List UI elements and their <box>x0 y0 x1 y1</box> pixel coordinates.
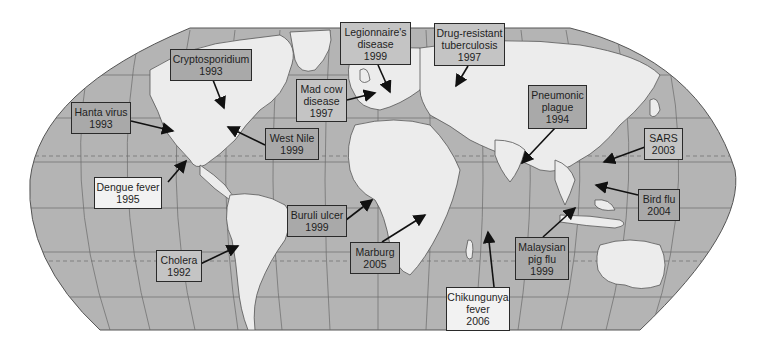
label-year: 2006 <box>466 315 489 327</box>
label-year: 1997 <box>458 51 481 63</box>
label-text: Legionnaire's <box>344 26 406 38</box>
label-text: West Nile <box>270 132 315 144</box>
label-cryptosporidium: Cryptosporidium 1993 <box>170 49 252 81</box>
label-malaysian-pig-flu: Malaysian pig flu 1999 <box>515 237 569 280</box>
label-year: 1999 <box>280 144 303 156</box>
label-mad-cow: Mad cow disease 1997 <box>296 79 347 122</box>
label-year: 2003 <box>652 144 675 156</box>
label-text: Pneumonic <box>531 89 584 101</box>
label-text: Malaysian <box>518 241 565 253</box>
label-year: 2004 <box>647 205 670 217</box>
label-west-nile: West Nile 1999 <box>265 128 319 160</box>
label-year: 1997 <box>310 107 333 119</box>
label-dengue-fever: Dengue fever 1995 <box>94 177 162 209</box>
label-text-2: fever <box>466 303 489 315</box>
label-chikungunya-fever: Chikungunya fever 2006 <box>446 287 510 331</box>
label-marburg: Marburg 2005 <box>350 242 400 274</box>
label-text: Chikungunya <box>447 291 508 303</box>
label-text: Dengue fever <box>96 181 159 193</box>
label-year: 1999 <box>305 221 328 233</box>
label-legionnaires: Legionnaire's disease 1999 <box>340 22 411 65</box>
label-text-2: plague <box>542 101 574 113</box>
label-bird-flu: Bird flu 2004 <box>638 189 680 221</box>
label-text-2: disease <box>357 38 393 50</box>
label-text: Drug-resistant <box>437 27 503 39</box>
label-sars: SARS 2003 <box>644 128 683 160</box>
label-text: Buruli ulcer <box>291 209 344 221</box>
label-year: 2005 <box>363 258 386 270</box>
new-zealand <box>688 289 698 302</box>
label-year: 1993 <box>89 118 112 130</box>
label-year: 1993 <box>199 65 222 77</box>
label-year: 1999 <box>364 50 387 62</box>
label-pneumonic-plague: Pneumonic plague 1994 <box>528 85 587 129</box>
label-year: 1999 <box>530 265 553 277</box>
label-drug-resistant-tb: Drug-resistant tuberculosis 1997 <box>434 23 505 66</box>
label-text: Marburg <box>355 246 394 258</box>
label-year: 1992 <box>167 266 190 278</box>
label-text-2: disease <box>303 95 339 107</box>
label-text-2: pig flu <box>528 253 556 265</box>
label-text: Hanta virus <box>74 106 127 118</box>
label-buruli-ulcer: Buruli ulcer 1999 <box>287 205 347 237</box>
label-text: SARS <box>649 132 678 144</box>
label-year: 1994 <box>546 113 569 125</box>
label-text: Mad cow <box>301 83 343 95</box>
label-cholera: Cholera 1992 <box>156 250 202 282</box>
label-text: Cholera <box>161 254 198 266</box>
label-text: Bird flu <box>643 193 676 205</box>
label-text-2: tuberculosis <box>441 39 497 51</box>
label-year: 1995 <box>116 193 139 205</box>
label-text: Cryptosporidium <box>173 53 249 65</box>
label-hanta-virus: Hanta virus 1993 <box>71 102 131 134</box>
